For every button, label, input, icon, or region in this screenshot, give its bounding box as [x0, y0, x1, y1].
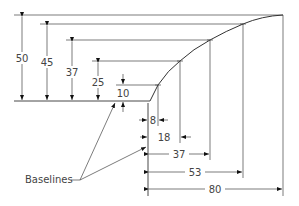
callout-leader-to-horizontal: [80, 103, 115, 180]
profile-curve: [150, 15, 283, 101]
callout-leader-to-vertical: [80, 147, 146, 180]
dim-label-45: 45: [41, 57, 54, 68]
dim-label-37: 37: [66, 67, 79, 78]
baseline-dimension-drawing: 50 45 37 25 10 8 18 37 53 80 Baselines: [0, 0, 299, 206]
dim-label-18: 18: [158, 132, 171, 143]
dim-label-8: 8: [150, 115, 156, 126]
dim-label-50: 50: [16, 53, 29, 64]
dim-label-53: 53: [189, 167, 202, 178]
dim-label-25: 25: [92, 77, 105, 88]
baselines-callout-label: Baselines: [25, 174, 73, 185]
dim-label-10: 10: [117, 88, 130, 99]
dim-label-80: 80: [209, 184, 222, 195]
dim-label-37h: 37: [173, 149, 186, 160]
point-marks: [155, 24, 246, 85]
